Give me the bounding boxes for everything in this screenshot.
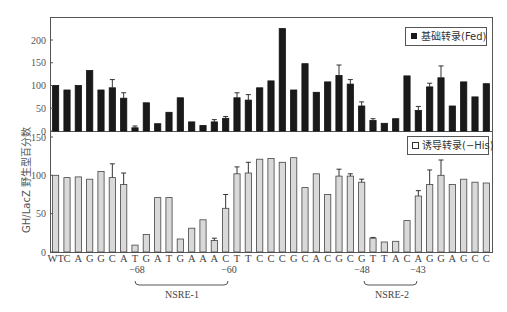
x-seq-label: C <box>256 253 263 264</box>
bar-his <box>75 177 81 252</box>
x-seq-label: C <box>403 253 410 264</box>
bar-his <box>438 175 444 252</box>
bar-his <box>427 185 433 253</box>
bar-fed <box>347 84 353 131</box>
bar-fed <box>109 88 115 131</box>
x-seq-label: A <box>313 253 321 264</box>
bar-his <box>370 238 376 252</box>
x-seq-label: C <box>471 253 478 264</box>
x-seq-label: C <box>222 253 229 264</box>
nsre1-bracket <box>135 281 228 285</box>
x-seq-label: G <box>437 253 445 264</box>
bar-fed <box>75 86 81 132</box>
bar-fed <box>279 29 285 131</box>
bar-his <box>347 176 353 252</box>
y-tick-label: 200 <box>31 35 46 46</box>
x-seq-label: G <box>460 253 468 264</box>
bar-his <box>404 221 410 252</box>
y-tick-label: 100 <box>31 170 46 181</box>
bar-fed <box>461 82 467 131</box>
bar-fed <box>325 82 331 131</box>
bar-fed <box>64 90 70 131</box>
bar-his <box>483 183 489 252</box>
nsre2-bracket <box>364 281 417 285</box>
y-tick-label: 150 <box>31 57 46 68</box>
y-tick-label: 50 <box>36 103 46 114</box>
bar-his <box>109 178 115 252</box>
bar-his <box>336 176 342 252</box>
x-seq-label: A <box>415 253 423 264</box>
bar-fed <box>143 103 149 131</box>
bar-fed <box>359 106 365 131</box>
legend-top: 基础转录(Fed) <box>406 28 487 46</box>
legend-top-label: 基础转录(Fed) <box>421 30 487 42</box>
x-seq-label: G <box>290 253 298 264</box>
x-seq-label: T <box>166 253 173 264</box>
y-tick-label: 150 <box>31 132 46 143</box>
bar-his <box>166 198 172 252</box>
x-seq-label: WT <box>48 253 65 264</box>
bar-his <box>302 188 308 252</box>
x-seq-label: C <box>347 253 354 264</box>
bar-fed <box>393 119 399 131</box>
y-tick-label: 50 <box>36 208 46 219</box>
legend-bottom-label: 诱导转录(−His) <box>422 139 494 151</box>
bar-his <box>381 242 387 252</box>
bar-his <box>87 179 93 252</box>
bar-fed <box>438 78 444 131</box>
bar-fed <box>121 98 127 131</box>
bar-fed <box>189 122 195 131</box>
nsre2-annotation: −48 −43 NSRE-2 <box>354 264 426 300</box>
x-seq-label: G <box>97 253 105 264</box>
bar-his <box>53 175 59 252</box>
bar-his <box>64 178 70 252</box>
x-seq-label: G <box>335 253 343 264</box>
y-tick-label: 100 <box>31 80 46 91</box>
bar-his <box>98 172 104 253</box>
bar-fed <box>268 81 274 131</box>
legend-filled-square-icon <box>411 33 417 39</box>
x-seq-label: A <box>449 253 457 264</box>
bar-his <box>415 196 421 252</box>
nsre2-start: −48 <box>354 264 370 275</box>
bar-his <box>143 234 149 252</box>
bar-fed <box>132 128 138 131</box>
nsre1-end: −60 <box>221 264 237 275</box>
bar-his <box>200 220 206 252</box>
x-seq-label: G <box>86 253 94 264</box>
bar-fed <box>291 90 297 131</box>
x-seq-label: G <box>177 253 185 264</box>
x-seq-label: A <box>120 253 128 264</box>
bar-his <box>121 185 127 253</box>
legend-open-square-icon <box>413 143 419 149</box>
x-seq-label: C <box>483 253 490 264</box>
bar-his <box>291 158 297 252</box>
bar-his <box>234 174 240 252</box>
bar-fed <box>98 90 104 131</box>
bar-his <box>223 208 229 252</box>
x-seq-label: T <box>132 253 139 264</box>
bar-his <box>325 195 331 253</box>
x-seq-label: A <box>154 253 162 264</box>
bar-his <box>132 245 138 252</box>
bar-his <box>211 241 217 253</box>
x-seq-label: A <box>188 253 196 264</box>
x-seq-label: T <box>381 253 388 264</box>
bar-his <box>155 198 161 252</box>
bottom-panel-bars <box>53 158 490 252</box>
bar-his <box>449 185 455 253</box>
x-seq-label: C <box>267 253 274 264</box>
nsre2-end: −43 <box>410 264 426 275</box>
x-seq-label: A <box>75 253 83 264</box>
bar-fed <box>302 64 308 131</box>
bar-fed <box>313 92 319 131</box>
bar-fed <box>245 100 251 131</box>
bar-fed <box>211 122 217 131</box>
bar-fed <box>370 121 376 132</box>
bar-fed <box>155 124 161 131</box>
x-seq-label: G <box>426 253 434 264</box>
bar-his <box>393 241 399 252</box>
bar-fed <box>87 71 93 132</box>
legend-bottom: 诱导转录(−His) <box>408 137 494 155</box>
bar-fed <box>472 97 478 131</box>
